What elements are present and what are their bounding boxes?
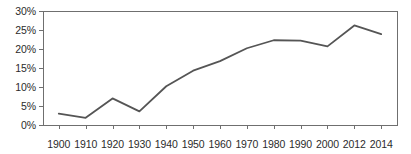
x-axis-tick-label: 1990: [289, 139, 312, 150]
line-chart: 0%5%10%15%20%25%30% 19001910192019301940…: [0, 0, 411, 154]
x-axis-tick-label: 1950: [182, 139, 205, 150]
x-axis-tick-label: 1910: [74, 139, 97, 150]
x-axis-tick-labels: 1900191019201930194019501960197019801990…: [0, 0, 411, 154]
x-axis-tick-label: 1900: [47, 139, 70, 150]
x-axis-tick-label: 1970: [235, 139, 258, 150]
x-axis-tick-label: 1920: [101, 139, 124, 150]
x-axis-tick-label: 2012: [343, 139, 366, 150]
x-axis-tick-label: 1960: [209, 139, 232, 150]
x-axis-tick-label: 1940: [155, 139, 178, 150]
x-axis-tick-label: 1980: [262, 139, 285, 150]
x-axis-tick-label: 2014: [370, 139, 393, 150]
x-axis-tick-label: 1930: [128, 139, 151, 150]
x-axis-tick-label: 2000: [316, 139, 339, 150]
